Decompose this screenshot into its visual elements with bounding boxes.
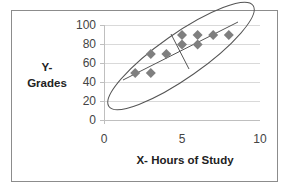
data-point-diamond-icon [224, 30, 234, 40]
data-point-diamond-icon [208, 30, 218, 40]
svg-text:100: 100 [76, 18, 96, 32]
svg-text:5: 5 [179, 132, 186, 146]
cluster-ellipse [96, 0, 265, 124]
svg-text:0: 0 [101, 132, 108, 146]
svg-text:40: 40 [83, 75, 97, 89]
data-points [130, 30, 234, 78]
svg-text:80: 80 [83, 37, 97, 51]
data-point-diamond-icon [161, 49, 171, 59]
svg-text:10: 10 [253, 132, 267, 146]
x-axis-title: X- Hours of Study [136, 154, 234, 166]
data-point-diamond-icon [130, 68, 140, 78]
x-tick-labels: 0 5 10 [101, 132, 267, 146]
y-axis-title: Y- [42, 61, 53, 73]
svg-text:60: 60 [83, 56, 97, 70]
data-point-diamond-icon [146, 49, 156, 59]
svg-text:0: 0 [89, 113, 96, 127]
svg-text:20: 20 [83, 94, 97, 108]
y-axis-title-line2: Grades [27, 77, 67, 89]
data-point-diamond-icon [146, 68, 156, 78]
data-point-diamond-icon [193, 30, 203, 40]
major-axis-line [123, 22, 238, 80]
scatter-chart: 100 80 60 40 20 0 0 5 10 Y- Grades X- Ho… [0, 0, 287, 190]
y-tick-labels: 100 80 60 40 20 0 [76, 18, 96, 127]
